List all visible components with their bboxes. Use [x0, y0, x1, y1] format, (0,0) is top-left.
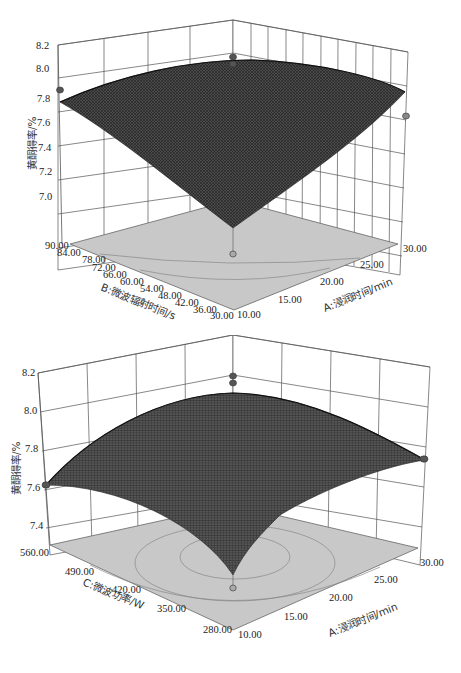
svg-text:8.0: 8.0	[36, 63, 49, 74]
svg-text:10.00: 10.00	[237, 309, 261, 320]
svg-text:25.00: 25.00	[374, 574, 398, 585]
svg-text:560.00: 560.00	[20, 547, 49, 558]
svg-text:7.2: 7.2	[39, 166, 52, 177]
surface-plot-2: 8.2 8.0 7.8 7.6 7.4 黄酮得率/% 560.00 490.00…	[0, 335, 461, 673]
svg-text:20.00: 20.00	[320, 276, 344, 287]
svg-text:25.00: 25.00	[360, 259, 384, 270]
svg-text:30.00: 30.00	[403, 243, 427, 254]
svg-text:490.00: 490.00	[65, 566, 94, 577]
svg-text:84.00: 84.00	[57, 247, 81, 258]
svg-text:8.2: 8.2	[36, 40, 49, 51]
svg-text:280.00: 280.00	[203, 624, 232, 635]
svg-text:30.00: 30.00	[420, 557, 444, 568]
a-axis-label: A:浸润时间/min	[326, 600, 399, 639]
surface-plot-1: 8.2 8.0 7.8 7.6 7.4 7.2 7.0 黄酮得率/% 90.00…	[0, 0, 461, 335]
svg-text:7.0: 7.0	[39, 191, 52, 202]
svg-text:15.00: 15.00	[278, 294, 302, 305]
z-axis-label: 黄酮得率/%	[26, 116, 38, 170]
z-axis-label: 黄酮得率/%	[10, 441, 22, 495]
z-axis-ticks: 8.2 8.0 7.8 7.6 7.4 7.2 7.0	[36, 40, 52, 202]
svg-text:7.8: 7.8	[25, 443, 38, 454]
svg-text:7.6: 7.6	[37, 117, 50, 128]
svg-text:30.00: 30.00	[210, 310, 234, 321]
svg-text:8.0: 8.0	[24, 405, 37, 416]
svg-text:7.4: 7.4	[38, 142, 52, 153]
svg-text:7.8: 7.8	[37, 93, 50, 104]
svg-text:350.00: 350.00	[157, 603, 186, 614]
svg-text:7.6: 7.6	[27, 482, 40, 493]
svg-text:15.00: 15.00	[284, 611, 308, 622]
svg-text:20.00: 20.00	[329, 592, 353, 603]
svg-text:10.00: 10.00	[238, 629, 262, 640]
svg-text:7.4: 7.4	[30, 520, 44, 531]
surface-plot-1-canvas: 8.2 8.0 7.8 7.6 7.4 7.2 7.0 黄酮得率/% 90.00…	[0, 0, 461, 335]
svg-text:8.2: 8.2	[22, 367, 35, 378]
surface-plot-2-canvas: 8.2 8.0 7.8 7.6 7.4 黄酮得率/% 560.00 490.00…	[0, 335, 461, 673]
